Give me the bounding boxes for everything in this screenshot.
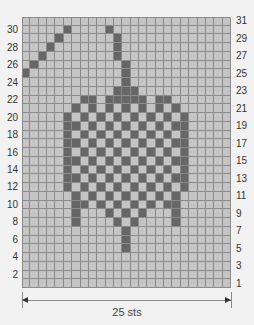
chart-cell <box>39 78 47 87</box>
chart-cell <box>122 262 130 271</box>
chart-cell <box>114 78 122 87</box>
chart-cell <box>106 166 114 175</box>
chart-cell <box>206 34 214 43</box>
chart-cell <box>198 227 206 236</box>
chart-cell <box>97 43 105 52</box>
chart-cell <box>64 271 72 280</box>
chart-cell <box>172 61 180 70</box>
chart-cell <box>30 192 38 201</box>
chart-cell <box>214 192 222 201</box>
chart-cell <box>72 201 80 210</box>
chart-cell <box>214 279 222 288</box>
chart-cell <box>214 209 222 218</box>
chart-cell <box>206 253 214 262</box>
chart-cell <box>181 209 189 218</box>
chart-cell <box>172 183 180 192</box>
chart-cell <box>147 17 155 26</box>
chart-cell <box>106 192 114 201</box>
chart-cell <box>214 201 222 210</box>
chart-cell <box>81 209 89 218</box>
chart-cell <box>114 174 122 183</box>
chart-cell <box>72 157 80 166</box>
chart-cell <box>106 122 114 131</box>
chart-cell <box>164 104 172 113</box>
chart-cell <box>139 104 147 113</box>
chart-cell <box>131 122 139 131</box>
chart-cell <box>39 166 47 175</box>
chart-cell <box>139 131 147 140</box>
chart-cell <box>139 183 147 192</box>
row-number-label: 13 <box>236 174 247 184</box>
chart-cell <box>189 157 197 166</box>
row-number-label: 4 <box>12 252 18 262</box>
chart-cell <box>122 113 130 122</box>
chart-cell <box>164 148 172 157</box>
chart-cell <box>97 201 105 210</box>
chart-cell <box>206 174 214 183</box>
chart-cell <box>122 78 130 87</box>
chart-cell <box>47 236 55 245</box>
chart-cell <box>39 148 47 157</box>
chart-cell <box>106 113 114 122</box>
chart-cell <box>81 236 89 245</box>
chart-cell <box>223 227 231 236</box>
chart-cell <box>81 227 89 236</box>
chart-cell <box>72 209 80 218</box>
chart-cell <box>181 43 189 52</box>
chart-cell <box>223 201 231 210</box>
chart-cell <box>131 209 139 218</box>
chart-cell <box>64 166 72 175</box>
chart-cell <box>64 157 72 166</box>
chart-cell <box>164 61 172 70</box>
chart-cell <box>214 131 222 140</box>
chart-cell <box>89 236 97 245</box>
chart-cell <box>189 139 197 148</box>
chart-cell <box>97 183 105 192</box>
chart-cell <box>97 34 105 43</box>
chart-cell <box>122 139 130 148</box>
chart-cell <box>172 271 180 280</box>
chart-cell <box>114 166 122 175</box>
chart-cell <box>147 96 155 105</box>
chart-cell <box>206 166 214 175</box>
chart-cell <box>122 34 130 43</box>
chart-cell <box>30 157 38 166</box>
chart-cell <box>47 52 55 61</box>
chart-cell <box>64 174 72 183</box>
chart-cell <box>189 253 197 262</box>
chart-cell <box>131 17 139 26</box>
chart-cell <box>81 157 89 166</box>
chart-cell <box>106 104 114 113</box>
chart-cell <box>164 271 172 280</box>
chart-cell <box>97 174 105 183</box>
chart-cell <box>55 192 63 201</box>
chart-cell <box>189 271 197 280</box>
chart-cell <box>64 183 72 192</box>
chart-cell <box>164 26 172 35</box>
chart-cell <box>106 61 114 70</box>
chart-cell <box>81 218 89 227</box>
chart-cell <box>22 139 30 148</box>
chart-cell <box>198 26 206 35</box>
chart-cell <box>164 69 172 78</box>
chart-cell <box>39 122 47 131</box>
chart-cell <box>156 209 164 218</box>
chart-cell <box>156 253 164 262</box>
chart-cell <box>64 131 72 140</box>
chart-cell <box>189 131 197 140</box>
chart-cell <box>55 244 63 253</box>
chart-cell <box>214 113 222 122</box>
chart-cell <box>198 253 206 262</box>
chart-cell <box>30 253 38 262</box>
chart-cell <box>147 244 155 253</box>
knitting-chart-grid <box>22 17 231 288</box>
chart-cell <box>97 87 105 96</box>
chart-cell <box>81 166 89 175</box>
chart-cell <box>189 218 197 227</box>
chart-cell <box>156 262 164 271</box>
chart-cell <box>139 236 147 245</box>
chart-cell <box>131 262 139 271</box>
chart-cell <box>22 69 30 78</box>
chart-cell <box>30 78 38 87</box>
chart-cell <box>22 96 30 105</box>
